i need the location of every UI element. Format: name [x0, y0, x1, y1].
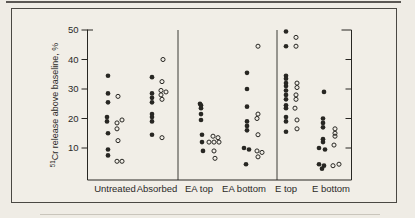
data-point-open [295, 81, 299, 85]
category-label: E bottom [312, 183, 350, 194]
data-point-open [160, 80, 164, 84]
data-point-open [211, 134, 215, 138]
data-point-filled [317, 146, 322, 151]
data-point-filled [245, 70, 250, 75]
data-point-open [295, 85, 299, 89]
data-point-open [294, 44, 298, 48]
data-point-filled [150, 91, 155, 96]
data-point-filled [200, 140, 205, 145]
data-point-filled [321, 121, 326, 126]
data-point-filled [247, 147, 252, 152]
data-point-filled [242, 146, 247, 151]
data-point-open [160, 136, 164, 140]
data-point-open [255, 116, 259, 120]
data-point-filled [284, 97, 289, 102]
data-point-filled [200, 132, 205, 137]
data-point-filled [284, 88, 289, 93]
data-point-open [115, 159, 119, 163]
data-point-filled [150, 119, 155, 124]
data-point-filled [245, 104, 250, 109]
y-tick-label: 10 [68, 142, 79, 153]
data-point-open [333, 127, 337, 131]
data-point-open [337, 162, 341, 166]
data-point-open [256, 155, 260, 159]
data-point-filled [105, 119, 110, 124]
data-point-open [160, 97, 164, 101]
data-point-open [331, 164, 335, 168]
data-point-filled [284, 129, 289, 134]
category-label: EA bottom [222, 183, 266, 194]
y-axis-title: 51Cr release above baseline, % [49, 43, 60, 168]
data-point-open [294, 35, 298, 39]
category-label: Untreated [94, 183, 136, 194]
data-point-filled [284, 93, 289, 98]
y-tick-label: 40 [68, 54, 79, 65]
data-point-filled [106, 73, 111, 78]
data-point-filled [320, 166, 325, 171]
data-point-filled [105, 115, 110, 120]
y-tick-label: 30 [68, 83, 79, 94]
data-point-open [164, 90, 168, 94]
data-point-filled [284, 84, 289, 89]
data-point-filled [244, 162, 249, 167]
scanned-figure-page: { "chart_data": { "type": "scatter", "ti… [0, 0, 415, 218]
data-point-open [293, 106, 297, 110]
data-point-open [115, 127, 119, 131]
data-point-filled [321, 125, 326, 130]
y-tick-label: 20 [68, 113, 79, 124]
data-point-filled [284, 106, 289, 111]
data-point-filled [150, 132, 155, 137]
data-point-filled [199, 112, 204, 117]
y-tick-label: 50 [68, 24, 79, 35]
data-point-open [116, 139, 120, 143]
data-point-open [294, 97, 298, 101]
category-label: Absorbed [137, 183, 178, 194]
data-point-open [260, 150, 264, 154]
data-point-open [256, 133, 260, 137]
data-point-filled [106, 131, 111, 136]
data-point-filled [245, 128, 250, 133]
data-point-filled [245, 124, 250, 129]
data-point-filled [201, 149, 206, 154]
category-label: EA top [185, 183, 213, 194]
data-point-open [212, 140, 216, 144]
data-point-open [120, 118, 124, 122]
data-point-open [115, 121, 119, 125]
data-point-open [217, 140, 221, 144]
data-point-filled [317, 162, 322, 167]
data-point-open [213, 156, 217, 160]
data-point-open [256, 112, 260, 116]
data-point-open [120, 159, 124, 163]
data-point-open [159, 93, 163, 97]
data-point-filled [245, 87, 250, 92]
data-point-open [295, 127, 299, 131]
data-point-filled [150, 75, 155, 80]
data-point-filled [284, 76, 289, 81]
data-point-filled [284, 115, 289, 120]
data-point-filled [106, 153, 111, 158]
data-point-open [294, 93, 298, 97]
data-point-filled [106, 147, 111, 152]
data-point-open [333, 134, 337, 138]
data-point-filled [321, 140, 326, 145]
data-point-filled [245, 119, 250, 124]
data-point-filled [106, 100, 111, 105]
data-point-filled [150, 115, 155, 120]
data-point-filled [199, 118, 204, 123]
data-point-filled [150, 96, 155, 101]
data-point-open [159, 88, 163, 92]
data-point-filled [106, 91, 111, 96]
data-point-open [212, 149, 216, 153]
scatter-plot: 504030201051Cr release above baseline, %… [0, 0, 415, 218]
category-label: E top [275, 183, 297, 194]
data-point-open [332, 143, 336, 147]
data-point-open [161, 57, 165, 61]
data-point-open [256, 44, 260, 48]
data-point-filled [284, 29, 289, 34]
data-point-open [216, 136, 220, 140]
data-point-filled [322, 90, 327, 95]
data-point-open [116, 94, 120, 98]
data-point-filled [321, 116, 326, 121]
data-point-open [255, 149, 259, 153]
data-point-filled [284, 44, 289, 49]
